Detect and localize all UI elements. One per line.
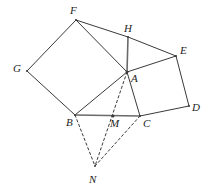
segment-F-G <box>27 20 76 71</box>
segment-B-N <box>75 115 95 166</box>
vertex-point-G <box>26 70 28 72</box>
vertex-label-H: H <box>124 23 132 34</box>
segment-E-D <box>176 56 189 106</box>
vertex-label-A: A <box>131 73 138 84</box>
segment-H-E <box>128 37 176 56</box>
segment-B-C <box>75 115 140 116</box>
vertex-label-C: C <box>143 118 150 129</box>
vertex-point-C <box>139 115 141 117</box>
vertex-point-N <box>94 165 96 167</box>
segment-E-A <box>127 56 176 72</box>
vertex-label-F: F <box>70 5 77 16</box>
vertex-point-F <box>75 19 77 21</box>
segment-B-A <box>75 72 127 115</box>
segment-D-C <box>140 106 189 116</box>
vertex-label-N: N <box>89 174 96 185</box>
segment-G-B <box>27 71 75 115</box>
vertex-label-G: G <box>13 63 21 74</box>
vertex-point-B <box>74 114 76 116</box>
vertex-label-M: M <box>110 118 119 129</box>
segment-H-A <box>127 37 128 72</box>
vertex-point-A <box>126 71 129 74</box>
vertex-point-D <box>188 105 190 107</box>
segments-layer <box>27 20 189 166</box>
vertex-label-D: D <box>192 102 200 113</box>
figure-canvas <box>0 0 209 195</box>
vertex-label-E: E <box>180 45 187 56</box>
geometry-figure: FHEGADBMCN <box>0 0 209 195</box>
vertex-point-H <box>127 36 129 38</box>
segment-A-F <box>76 20 127 72</box>
vertex-point-E <box>175 55 177 57</box>
vertex-label-B: B <box>66 117 73 128</box>
